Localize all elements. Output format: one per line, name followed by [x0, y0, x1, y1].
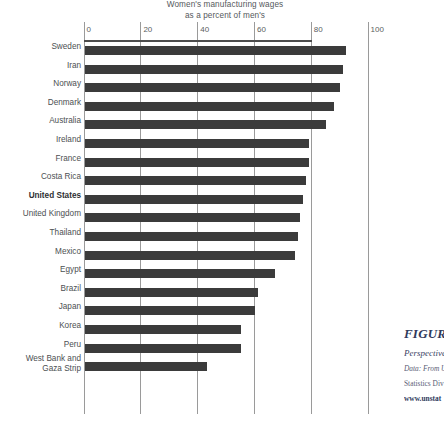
category-label: Brazil [0, 284, 81, 294]
category-label: Iran [0, 61, 81, 71]
category-label: Ireland [0, 135, 81, 145]
category-label: Korea [0, 321, 81, 331]
category-label: Sweden [0, 42, 81, 52]
category-label: France [0, 154, 81, 164]
category-label: Denmark [0, 98, 81, 108]
bar [85, 158, 309, 167]
bar [85, 195, 304, 204]
xtick-label-60: 60 [254, 25, 266, 34]
bar-row: Costa Rica [0, 172, 444, 191]
chart-title-line-2: as a percent of men's [80, 11, 370, 22]
bar [85, 102, 335, 111]
category-label: Thailand [0, 228, 81, 238]
bar [85, 83, 341, 92]
xtick-label-80: 80 [311, 25, 323, 34]
category-label: West Bank and Gaza Strip [0, 354, 81, 373]
category-label: United Kingdom [0, 209, 81, 219]
bar-row: Korea [0, 321, 444, 340]
bar [85, 213, 301, 222]
plot-area: 0 20 40 60 80 100 Sweden Iran Nor [0, 22, 444, 426]
bar-row: France [0, 154, 444, 173]
bar-row: West Bank and Gaza Strip [0, 358, 444, 377]
bar-row: Brazil [0, 284, 444, 303]
bar [85, 65, 343, 74]
bar [85, 46, 346, 55]
bar-row: United Kingdom [0, 209, 444, 228]
perspective-label: Perspective [404, 348, 444, 358]
bar-row: Denmark [0, 98, 444, 117]
xtick-label-40: 40 [197, 25, 209, 34]
bar-row: Norway [0, 79, 444, 98]
category-label: Australia [0, 116, 81, 126]
bar-row: Iran [0, 61, 444, 80]
bar-row: Mexico [0, 247, 444, 266]
bar [85, 139, 309, 148]
category-label: Peru [0, 340, 81, 350]
bar [85, 120, 326, 129]
xtick-label-100: 100 [368, 25, 384, 34]
xtick-label-0: 0 [84, 25, 91, 34]
bar [85, 325, 241, 334]
category-label: Mexico [0, 247, 81, 257]
bar-row: Sweden [0, 42, 444, 61]
bar [85, 344, 241, 353]
chart-figure: Women's manufacturing wages as a percent… [0, 0, 444, 426]
chart-title: Women's manufacturing wages as a percent… [80, 0, 370, 21]
source-url: www.unstat [404, 394, 444, 403]
source-note: Statistics Div [404, 379, 444, 388]
category-label: Japan [0, 302, 81, 312]
bar [85, 288, 258, 297]
bar-row: United States [0, 191, 444, 210]
bar-row: Ireland [0, 135, 444, 154]
bar-row: Thailand [0, 228, 444, 247]
bar-rows: Sweden Iran Norway Denmark Australia Ire [0, 42, 444, 377]
xtick-label-20: 20 [140, 25, 152, 34]
category-label: Egypt [0, 265, 81, 275]
category-label: Norway [0, 79, 81, 89]
bar [85, 232, 298, 241]
data-note: Data: From U [404, 364, 444, 373]
category-label-highlighted: United States [0, 191, 81, 201]
bar-row: Japan [0, 302, 444, 321]
bar [85, 362, 207, 371]
side-column: FIGURE Perspective Data: From U Statisti… [404, 326, 444, 403]
bar-row: Australia [0, 116, 444, 135]
chart-title-line-1: Women's manufacturing wages [80, 0, 370, 11]
bar [85, 306, 255, 315]
bar [85, 251, 295, 260]
bar-row: Egypt [0, 265, 444, 284]
category-label: Costa Rica [0, 172, 81, 182]
bar [85, 269, 275, 278]
bar [85, 176, 307, 185]
figure-label: FIGURE [404, 326, 444, 342]
